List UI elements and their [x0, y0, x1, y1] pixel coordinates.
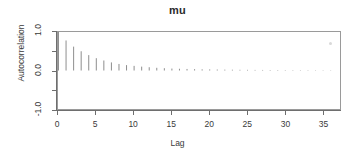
page-title: mu [0, 4, 355, 16]
plot-panel [57, 31, 341, 110]
x-axis-tick-label: 35 [311, 119, 335, 129]
x-axis-tick-label: 15 [159, 119, 183, 129]
x-axis-tick-label: 10 [121, 119, 145, 129]
y-axis-label: Autocorrelation [16, 0, 26, 108]
acf-bars [58, 32, 340, 109]
x-axis-line [57, 110, 341, 111]
x-axis-tick-label: 25 [235, 119, 259, 129]
y-axis-tick [52, 90, 57, 91]
render-artifact-dot [329, 42, 332, 45]
y-axis-tick-label: 1.0 [33, 18, 43, 42]
x-axis-tick [171, 110, 172, 115]
y-axis-tick [52, 71, 57, 72]
x-axis-tick [247, 110, 248, 115]
x-axis-tick [285, 110, 286, 115]
y-axis-tick [52, 51, 57, 52]
x-axis-tick-label: 30 [273, 119, 297, 129]
x-axis-tick-label: 0 [45, 119, 69, 129]
acf-plot: mu Autocorrelation Lag 1.00.0-1.00510152… [0, 0, 355, 159]
x-axis-tick [133, 110, 134, 115]
y-axis-tick [52, 31, 57, 32]
x-axis-label: Lag [0, 138, 355, 148]
y-axis-tick-label: 0.0 [33, 58, 43, 82]
x-axis-tick [209, 110, 210, 115]
x-axis-tick-label: 5 [83, 119, 107, 129]
x-axis [57, 110, 341, 117]
x-axis-tick [95, 110, 96, 115]
y-axis [50, 31, 57, 110]
y-axis-tick-label: -1.0 [33, 97, 43, 121]
x-axis-tick [57, 110, 58, 115]
x-axis-tick-label: 20 [197, 119, 221, 129]
x-axis-tick [323, 110, 324, 115]
